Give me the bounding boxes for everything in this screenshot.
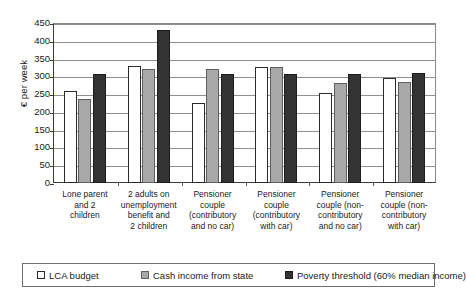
y-axis-tick-label: 350 [22,54,50,64]
bar-group [245,23,309,183]
x-axis-category-label: Pensionercouple(contributorywith car) [241,189,313,231]
x-axis-label-line: couple [177,200,249,211]
legend-item-lca[interactable]: LCA budget [37,270,99,281]
legend-swatch-cash-icon [141,271,149,279]
x-axis-label-line: 2 adults on [113,189,185,200]
x-axis-label-line: and 2 [49,200,121,211]
x-axis-label-line: (contributory [177,210,249,221]
legend-label: Poverty threshold (60% median income) [297,270,466,281]
legend-item-poverty[interactable]: Poverty threshold (60% median income) [285,270,466,281]
y-axis-tick-label: 250 [22,89,50,99]
bar-poverty [157,30,170,183]
x-axis-label-line: and no car) [177,221,249,232]
legend-item-cash[interactable]: Cash income from state [141,270,253,281]
x-axis-category-label: Pensionercouple(contributoryand no car) [177,189,249,231]
x-axis-label-line: couple (non- [304,200,376,211]
y-axis-tick-label: 100 [22,142,50,152]
x-axis-label-line: Pensioner [177,189,249,200]
x-axis-label-line: Lone parent [49,189,121,200]
x-axis-label-line: benefit and [113,210,185,221]
x-axis-label-line: Pensioner [304,189,376,200]
x-axis-label-line: (contributory [241,210,313,221]
bar-lca [255,67,268,183]
y-axis-tick-label: 200 [22,107,50,117]
bar-group [53,23,117,183]
legend-swatch-lca-icon [37,271,45,279]
x-axis-label-line: couple (non- [368,200,440,211]
bar-lca [64,91,77,183]
bar-cash [398,82,411,183]
x-axis-category-labels: Lone parentand 2children2 adults onunemp… [53,189,436,247]
bar-group [117,23,181,183]
bar-cash [334,83,347,183]
y-axis-tick-mark [50,184,54,185]
x-axis-label-line: Pensioner [368,189,440,200]
y-axis-tick-label: 450 [22,18,50,28]
legend-swatch-poverty-icon [285,271,293,279]
x-axis-label-line: contributory [304,210,376,221]
x-axis-label-line: unemployment [113,200,185,211]
bar-poverty [284,74,297,183]
bar-lca [192,103,205,183]
x-axis-label-line: and no car) [304,221,376,232]
x-axis-category-label: 2 adults onunemploymentbenefit and2 chil… [113,189,185,231]
y-axis-tick-labels: 050100150200250300350400450 [22,17,50,189]
x-axis-category-label: Lone parentand 2children [49,189,121,221]
legend-label: LCA budget [49,270,99,281]
bar-lca [319,93,332,183]
y-axis-tick-label: 300 [22,71,50,81]
x-axis-label-line: with car) [241,221,313,232]
bar-group [372,23,436,183]
x-axis-category-label: Pensionercouple (non-contributoryand no … [304,189,376,231]
bar-poverty [221,74,234,183]
bar-group [181,23,245,183]
bar-group [308,23,372,183]
bar-cash [206,69,219,183]
bar-poverty [412,73,425,183]
x-axis-label-line: contributory [368,210,440,221]
chart-legend: LCA budgetCash income from statePoverty … [22,263,435,287]
x-axis-label-line: 2 children [113,221,185,232]
bar-cash [270,67,283,183]
bar-lca [128,66,141,183]
legend-label: Cash income from state [153,270,253,281]
y-axis-tick-label: 0 [22,178,50,188]
bar-poverty [348,74,361,183]
bar-poverty [93,74,106,183]
x-axis-label-line: couple [241,200,313,211]
y-axis-tick-label: 50 [22,160,50,170]
x-axis-category-label: Pensionercouple (non-contributorywith ca… [368,189,440,231]
x-axis-label-line: children [49,210,121,221]
bars-layer [53,23,436,183]
bar-cash [78,99,91,183]
x-axis-label-line: with car) [368,221,440,232]
x-axis-label-line: Pensioner [241,189,313,200]
y-axis-tick-label: 400 [22,36,50,46]
bar-cash [142,69,155,183]
y-axis-tick-label: 150 [22,125,50,135]
bar-lca [383,78,396,183]
